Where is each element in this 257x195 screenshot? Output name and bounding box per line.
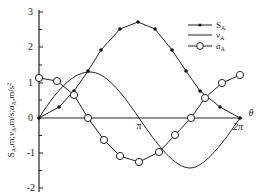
y-tick-label-m2: -2 — [27, 182, 35, 193]
x-axis-label-theta: θ — [249, 107, 254, 118]
y-tick-label-m1: -1 — [27, 147, 35, 158]
legend-label-v-a: vA — [216, 30, 225, 41]
legend-label-a-a: aA — [216, 41, 226, 52]
y-tick-label-0: 0 — [28, 112, 33, 123]
kinematics-chart: 3 2 1 0 -1 -2 SA,m;vA,m/s;aA,m/s2 π 2π θ… — [0, 0, 257, 195]
legend: SA vA aA — [188, 20, 226, 52]
y-tick-label-1: 1 — [28, 77, 33, 88]
y-tick-label-3: 3 — [28, 6, 33, 17]
series-s-a-line — [39, 22, 240, 118]
y-axis-label: SA,m;vA,m/s;aA,m/s2 — [6, 83, 17, 157]
y-tick-label-2: 2 — [28, 41, 33, 52]
